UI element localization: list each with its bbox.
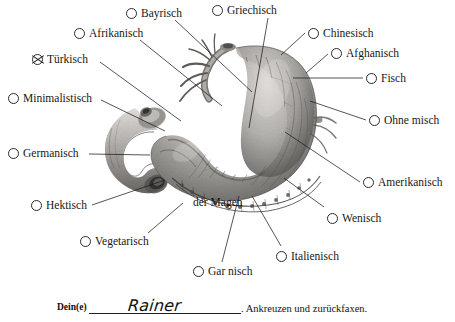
option-label: Gar nisch — [208, 266, 252, 278]
option-label: Amerikanisch — [378, 177, 443, 189]
option-ohne-misch[interactable]: Ohne misch — [369, 115, 439, 127]
signature-value[interactable]: Rainer — [127, 296, 182, 315]
stomach-illustration — [105, 34, 336, 212]
leader-line-afghanisch — [306, 54, 328, 73]
checkbox-icon[interactable] — [126, 8, 137, 19]
checkbox-icon[interactable] — [308, 28, 319, 39]
signature-label: Dein(e) — [57, 302, 87, 312]
leader-line-bayrisch — [175, 20, 252, 92]
option-label: Chinesisch — [323, 28, 373, 40]
leader-line-hektisch — [92, 180, 165, 205]
option-label: Minimalistisch — [23, 93, 92, 105]
option-label: Vegetarisch — [95, 236, 149, 248]
option-label: Afrikanisch — [89, 28, 143, 40]
leader-line-t-rkisch — [100, 62, 181, 121]
checkbox-icon[interactable] — [369, 115, 380, 126]
checkbox-icon[interactable] — [363, 177, 374, 188]
checkbox-icon[interactable] — [8, 93, 19, 104]
leader-line-vegetarisch — [148, 203, 183, 233]
option-hektisch[interactable]: Hektisch — [31, 200, 87, 212]
option-label: Türkisch — [47, 54, 88, 66]
option-label: Ohne misch — [384, 115, 439, 127]
leader-line-ohne-misch — [310, 101, 366, 120]
option-t-rkisch[interactable]: Türkisch — [32, 54, 88, 66]
leader-line-griechisch — [249, 18, 268, 128]
leader-line-italienisch — [252, 196, 281, 246]
checkbox-icon[interactable] — [74, 28, 85, 39]
option-minimalistisch[interactable]: Minimalistisch — [8, 93, 92, 105]
option-label: Griechisch — [227, 5, 277, 17]
option-italienisch[interactable]: Italienisch — [276, 251, 339, 263]
checkbox-icon[interactable] — [276, 251, 287, 262]
option-germanisch[interactable]: Germanisch — [8, 148, 79, 160]
option-griechisch[interactable]: Griechisch — [212, 5, 277, 17]
option-afghanisch[interactable]: Afghanisch — [331, 48, 399, 60]
checkbox-icon[interactable] — [31, 200, 42, 211]
checkbox-icon[interactable] — [80, 236, 91, 247]
checkbox-icon[interactable] — [212, 5, 223, 16]
option-gar-nisch[interactable]: Gar nisch — [193, 266, 252, 278]
checkbox-icon[interactable] — [327, 213, 338, 224]
option-chinesisch[interactable]: Chinesisch — [308, 28, 373, 40]
option-label: Germanisch — [23, 148, 79, 160]
option-bayrisch[interactable]: Bayrisch — [126, 8, 182, 20]
option-label: Fisch — [381, 73, 406, 85]
checkbox-icon[interactable] — [331, 48, 342, 59]
checkbox-icon[interactable] — [366, 73, 377, 84]
checkbox-icon[interactable] — [8, 148, 19, 159]
leader-line-amerikanisch — [285, 132, 360, 182]
form-page: BayrischGriechischAfrikanischChinesischA… — [0, 0, 455, 322]
option-label: Bayrisch — [141, 8, 182, 20]
leader-line-minimalistisch — [101, 100, 165, 131]
option-vegetarisch[interactable]: Vegetarisch — [80, 236, 149, 248]
option-wenisch[interactable]: Wenisch — [327, 213, 381, 225]
option-label: Afghanisch — [346, 48, 399, 60]
option-label: Hektisch — [46, 200, 87, 212]
diagram-caption: der Magen — [193, 196, 243, 208]
option-fisch[interactable]: Fisch — [366, 73, 406, 85]
option-afrikanisch[interactable]: Afrikanisch — [74, 28, 143, 40]
leader-line-germanisch — [89, 154, 150, 155]
leader-line-chinesisch — [281, 33, 305, 55]
checkbox-checked-icon[interactable] — [32, 54, 43, 65]
option-label: Italienisch — [291, 251, 339, 263]
leader-line-afrikanisch — [140, 40, 222, 106]
option-label: Wenisch — [342, 213, 381, 225]
checkbox-icon[interactable] — [193, 266, 204, 277]
instruction-text: . Ankreuzen und zurückfaxen. — [241, 303, 367, 314]
leader-line-wenisch — [284, 178, 324, 207]
signature-footer: Dein(e) Rainer . Ankreuzen und zurückfax… — [0, 296, 455, 322]
leader-lines — [89, 18, 366, 262]
option-amerikanisch[interactable]: Amerikanisch — [363, 177, 443, 189]
